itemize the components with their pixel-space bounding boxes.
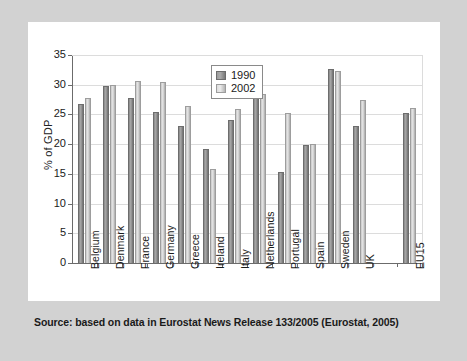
x-axis-tick-mark [397, 263, 398, 267]
legend-item-1990: 1990 [216, 69, 255, 82]
bar [228, 120, 234, 263]
legend-item-2002: 2002 [216, 82, 255, 95]
x-axis-label: Ireland [214, 236, 226, 269]
bar [278, 172, 284, 263]
bar [153, 112, 159, 263]
legend: 1990 2002 [211, 65, 263, 99]
figure-root: % of GDP 05101520253035 BelgiumDenmarkFr… [0, 0, 467, 361]
x-axis-label: Greece [189, 234, 201, 269]
legend-label-1990: 1990 [231, 70, 255, 81]
bar [303, 145, 309, 263]
bar [128, 98, 134, 263]
bar [360, 100, 366, 263]
bar [178, 126, 184, 263]
x-axis-label: Sweden [339, 230, 351, 269]
x-axis-label: UK [364, 254, 376, 269]
x-axis-label: EU15 [414, 242, 426, 269]
bar [203, 149, 209, 263]
bar [410, 108, 416, 263]
x-axis-label: Germany [164, 225, 176, 269]
x-axis-label: Italy [239, 249, 251, 269]
bar [328, 69, 334, 263]
legend-swatch-2002-icon [216, 84, 226, 93]
x-axis-label: Denmark [114, 226, 126, 269]
bar [403, 113, 409, 263]
bar [353, 126, 359, 263]
x-axis-label: Spain [314, 242, 326, 269]
legend-swatch-1990-icon [216, 71, 226, 80]
x-axis-label: France [139, 236, 151, 269]
bar [78, 104, 84, 263]
plot-area: % of GDP 05101520253035 BelgiumDenmarkFr… [28, 22, 440, 301]
x-axis-label: Portugal [289, 229, 301, 269]
x-axis-label: Belgium [89, 230, 101, 269]
source-note: Source: based on data in Eurostat News R… [34, 316, 399, 328]
legend-label-2002: 2002 [231, 83, 255, 94]
chart-panel: % of GDP 05101520253035 BelgiumDenmarkFr… [28, 22, 440, 301]
bar [235, 109, 241, 263]
bar [103, 86, 109, 263]
x-axis-label: Netherlands [264, 211, 276, 269]
bar [253, 70, 259, 263]
